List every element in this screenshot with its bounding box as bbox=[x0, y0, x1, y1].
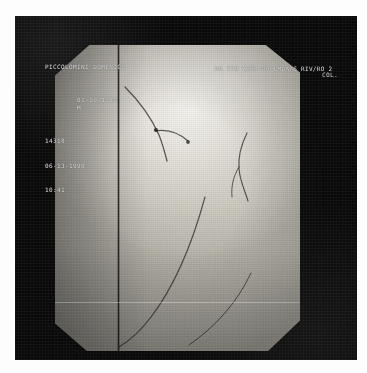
patient-sex: M bbox=[77, 104, 81, 111]
patient-name: PICCOLOMINI DOMENICO bbox=[45, 63, 125, 71]
exam-time: 10:41 bbox=[45, 186, 125, 194]
exam-date: 06-13-1998 bbox=[45, 162, 125, 170]
projection-label: COL. bbox=[322, 71, 338, 79]
patient-record-id: 14318 bbox=[45, 137, 125, 145]
acquisition-info-overlay: RR 770 WW78'90 LMDA/S RIV/RO 2 bbox=[215, 49, 332, 90]
film-frame: PICCOLOMINI DOMENICO 01-09-1950 M 14318 … bbox=[15, 16, 357, 360]
angiogram-viewer: PICCOLOMINI DOMENICO 01-09-1950 M 14318 … bbox=[0, 0, 367, 373]
patient-info-overlay: PICCOLOMINI DOMENICO 01-09-1950 M 14318 … bbox=[45, 47, 125, 211]
patient-birthdate: 01-09-1950 bbox=[77, 96, 117, 103]
patient-birthdate-sex: 01-09-1950 M bbox=[45, 88, 125, 121]
acquisition-header: RR 770 WW78'90 LMDA/S RIV/RO 2 bbox=[215, 65, 332, 73]
